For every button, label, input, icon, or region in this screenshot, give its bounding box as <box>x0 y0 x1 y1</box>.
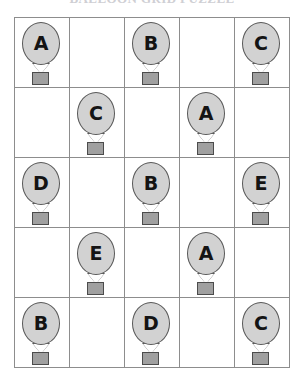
grid-row: DBE <box>15 158 290 228</box>
grid-cell[interactable]: E <box>70 228 125 298</box>
balloon-label: A <box>187 232 225 275</box>
balloon-label: D <box>22 162 60 205</box>
grid-cell[interactable]: E <box>235 158 290 228</box>
grid-cell[interactable] <box>125 88 180 158</box>
balloon-marker[interactable]: E <box>241 162 283 224</box>
balloon-label: E <box>77 232 115 275</box>
balloon-basket-icon <box>32 72 49 85</box>
grid-cell[interactable]: C <box>70 88 125 158</box>
balloon-basket-icon <box>32 212 49 225</box>
balloon-marker[interactable]: C <box>241 22 283 84</box>
grid-cell[interactable]: B <box>125 18 180 88</box>
grid-cell[interactable] <box>15 228 70 298</box>
grid-cell[interactable] <box>125 228 180 298</box>
grid-cell[interactable] <box>70 298 125 368</box>
balloon-marker[interactable]: B <box>131 162 173 224</box>
balloon-marker[interactable]: B <box>21 302 63 364</box>
balloon-label: C <box>242 302 280 345</box>
grid-cell[interactable] <box>15 88 70 158</box>
balloon-label: A <box>187 92 225 135</box>
grid-cell[interactable]: A <box>180 228 235 298</box>
balloon-basket-icon <box>142 352 159 365</box>
grid-cell[interactable]: C <box>235 298 290 368</box>
grid-cell[interactable] <box>235 88 290 158</box>
balloon-label: A <box>22 22 60 65</box>
grid-cell[interactable]: C <box>235 18 290 88</box>
grid-cell[interactable] <box>70 158 125 228</box>
grid-cell[interactable]: A <box>180 88 235 158</box>
balloon-label: B <box>22 302 60 345</box>
grid-cell-empty <box>235 88 289 157</box>
grid-cell-empty <box>15 88 69 157</box>
grid-cell-empty <box>125 228 179 297</box>
balloon-marker[interactable]: A <box>186 232 228 294</box>
grid-cell[interactable]: D <box>125 298 180 368</box>
balloon-marker[interactable]: B <box>131 22 173 84</box>
balloon-label: E <box>242 162 280 205</box>
balloon-grid-body: ABCCADBEEABDC <box>15 18 290 368</box>
grid-row: BDC <box>15 298 290 368</box>
grid-cell[interactable] <box>180 18 235 88</box>
balloon-marker[interactable]: C <box>76 92 118 154</box>
grid-cell-empty <box>180 158 234 227</box>
balloon-basket-icon <box>252 352 269 365</box>
grid-cell-empty <box>70 18 124 87</box>
balloon-grid-container: ABCCADBEEABDC <box>14 17 290 362</box>
balloon-marker[interactable]: D <box>21 162 63 224</box>
grid-cell-empty <box>15 228 69 297</box>
grid-cell-empty <box>125 88 179 157</box>
grid-cell[interactable] <box>180 298 235 368</box>
balloon-basket-icon <box>87 282 104 295</box>
balloon-label: B <box>132 162 170 205</box>
grid-cell[interactable]: B <box>125 158 180 228</box>
balloon-basket-icon <box>197 282 214 295</box>
grid-cell-empty <box>180 18 234 87</box>
balloon-basket-icon <box>32 352 49 365</box>
grid-cell-empty <box>235 228 289 297</box>
balloon-label: B <box>132 22 170 65</box>
grid-cell[interactable] <box>235 228 290 298</box>
balloon-label: C <box>77 92 115 135</box>
grid-cell[interactable] <box>180 158 235 228</box>
balloon-label: D <box>132 302 170 345</box>
balloon-basket-icon <box>252 212 269 225</box>
balloon-label: C <box>242 22 280 65</box>
grid-row: EA <box>15 228 290 298</box>
balloon-grid: ABCCADBEEABDC <box>14 17 290 368</box>
page-title-clip: BALLOON GRID PUZZLE <box>0 0 304 8</box>
grid-cell-empty <box>70 298 124 367</box>
grid-cell[interactable]: A <box>15 18 70 88</box>
balloon-marker[interactable]: D <box>131 302 173 364</box>
balloon-marker[interactable]: A <box>21 22 63 84</box>
grid-cell[interactable] <box>70 18 125 88</box>
grid-row: ABC <box>15 18 290 88</box>
balloon-marker[interactable]: C <box>241 302 283 364</box>
grid-cell[interactable]: D <box>15 158 70 228</box>
grid-cell-empty <box>180 298 234 367</box>
grid-row: CA <box>15 88 290 158</box>
grid-cell[interactable]: B <box>15 298 70 368</box>
grid-cell-empty <box>70 158 124 227</box>
balloon-marker[interactable]: A <box>186 92 228 154</box>
balloon-basket-icon <box>252 72 269 85</box>
puzzle-page: BALLOON GRID PUZZLE ABCCADBEEABDC <box>0 0 304 377</box>
balloon-marker[interactable]: E <box>76 232 118 294</box>
balloon-basket-icon <box>197 142 214 155</box>
page-title: BALLOON GRID PUZZLE <box>0 0 304 7</box>
balloon-basket-icon <box>87 142 104 155</box>
balloon-basket-icon <box>142 72 159 85</box>
balloon-basket-icon <box>142 212 159 225</box>
